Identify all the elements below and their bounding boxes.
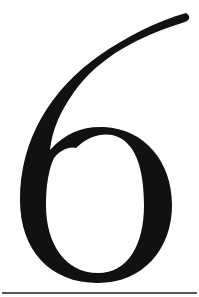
horizontal-rule (2, 292, 197, 294)
numeral-six-glyph (0, 0, 199, 297)
